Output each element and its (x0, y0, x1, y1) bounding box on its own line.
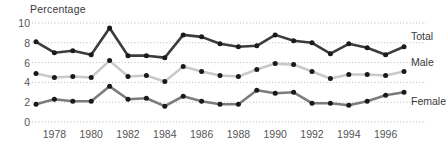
data-point (365, 45, 370, 50)
data-point (273, 32, 278, 37)
data-point (34, 71, 39, 76)
data-point (310, 69, 315, 74)
x-axis-tick-label: 1996 (374, 128, 397, 140)
data-point (402, 90, 407, 95)
data-point (70, 48, 75, 53)
data-point (291, 62, 296, 67)
series-label-total: Total (411, 30, 433, 42)
data-point (254, 43, 259, 48)
data-point (34, 102, 39, 107)
data-point (346, 41, 351, 46)
data-point (144, 73, 149, 78)
x-axis-tick-label: 1978 (43, 128, 66, 140)
data-point (254, 67, 259, 72)
x-axis-tick-label: 1986 (190, 128, 213, 140)
data-point (107, 58, 112, 63)
data-point (34, 39, 39, 44)
data-point (365, 72, 370, 77)
x-axis-tick-label: 1994 (337, 128, 360, 140)
data-point (199, 34, 204, 39)
data-point (383, 93, 388, 98)
data-point (236, 74, 241, 79)
data-point (52, 50, 57, 55)
data-point (89, 52, 94, 57)
data-point (199, 69, 204, 74)
x-axis-tick-label: 1980 (80, 128, 103, 140)
data-point (181, 64, 186, 69)
data-point (162, 55, 167, 60)
data-point (199, 99, 204, 104)
data-point (346, 72, 351, 77)
data-point (236, 102, 241, 107)
data-point (218, 102, 223, 107)
data-point (107, 25, 112, 30)
data-point (126, 53, 131, 58)
data-point (162, 104, 167, 109)
data-point (365, 99, 370, 104)
data-point (273, 91, 278, 96)
data-point (126, 97, 131, 102)
data-point (328, 101, 333, 106)
x-axis-tick-label: 1984 (153, 128, 176, 140)
data-point (383, 52, 388, 57)
series-label-male: Male (411, 56, 434, 68)
data-point (52, 97, 57, 102)
data-point (162, 79, 167, 84)
data-point (383, 73, 388, 78)
data-point (254, 88, 259, 93)
data-point (310, 101, 315, 106)
data-point (291, 38, 296, 43)
data-point (144, 96, 149, 101)
data-point (273, 61, 278, 66)
x-axis-tick-label: 1988 (227, 128, 250, 140)
data-point (328, 51, 333, 56)
data-point (126, 74, 131, 79)
data-point (328, 76, 333, 81)
data-point (310, 40, 315, 45)
x-axis-tick-label: 1990 (264, 128, 287, 140)
data-point (70, 74, 75, 79)
x-axis-tick-label: 1982 (116, 128, 139, 140)
data-point (218, 73, 223, 78)
data-point (70, 99, 75, 104)
data-point (89, 75, 94, 80)
data-point (89, 99, 94, 104)
data-point (218, 41, 223, 46)
data-point (144, 53, 149, 58)
data-point (52, 75, 57, 80)
data-point (181, 94, 186, 99)
data-point (236, 44, 241, 49)
data-point (107, 84, 112, 89)
series-label-female: Female (411, 95, 446, 107)
x-axis-tick-label: 1992 (300, 128, 323, 140)
data-point (402, 44, 407, 49)
data-point (402, 69, 407, 74)
data-point (346, 103, 351, 108)
data-point (181, 32, 186, 37)
data-point (291, 90, 296, 95)
